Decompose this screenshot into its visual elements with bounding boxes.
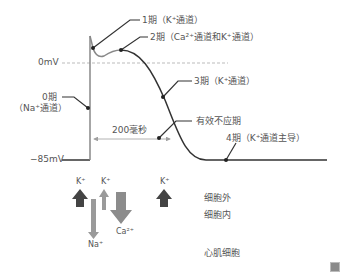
leader-phase1 [93, 20, 140, 48]
k-ion-label-2: K⁺ [101, 178, 110, 186]
leader-phase4 [226, 143, 236, 160]
leader-refractory [159, 121, 192, 138]
k-efflux-arrow-2 [99, 189, 109, 210]
na-influx-arrow [88, 199, 99, 239]
watermark-icon [330, 262, 340, 272]
zero-mv-label: 0mV [38, 58, 59, 67]
na-ion-label: Na⁺ [88, 241, 103, 249]
rest-mv-label: −85mV [30, 155, 64, 164]
cardiomyocyte-label: 心肌细胞 [204, 249, 240, 258]
phase4-label: 4期（K⁺通道主导） [226, 134, 305, 143]
k-efflux-arrow-3 [156, 189, 172, 207]
dot-phase4 [224, 158, 228, 162]
dot-phase0 [86, 106, 90, 110]
phase1-label: 1期（K⁺通道） [142, 16, 203, 25]
ca-ion-label: Ca²⁺ [116, 228, 134, 236]
dot-phase3 [161, 95, 165, 99]
intracellular-label: 细胞内 [204, 211, 231, 220]
ca-influx-arrow [110, 192, 132, 224]
duration-label: 200毫秒 [112, 126, 147, 135]
phase3-label: 3期（K⁺通道） [194, 77, 255, 86]
leader-phase3 [163, 81, 192, 97]
k-efflux-arrow-1 [72, 189, 88, 207]
repolarization-curve [121, 50, 327, 160]
leader-phase2 [121, 37, 148, 50]
phase0-label: 0期 [42, 93, 57, 102]
refractory-label: 有效不应期 [196, 117, 241, 126]
phase0-channel-label: （Na⁺通道） [14, 104, 67, 113]
dot-phase2 [119, 48, 123, 52]
extracellular-label: 细胞外 [204, 194, 231, 203]
k-ion-label-1: K⁺ [76, 178, 85, 186]
k-ion-label-3: K⁺ [160, 178, 169, 186]
phase2-label: 2期（Ca²⁺通道和K⁺通道） [150, 33, 259, 42]
dot-refractory [157, 136, 161, 140]
dot-phase1 [91, 46, 95, 50]
